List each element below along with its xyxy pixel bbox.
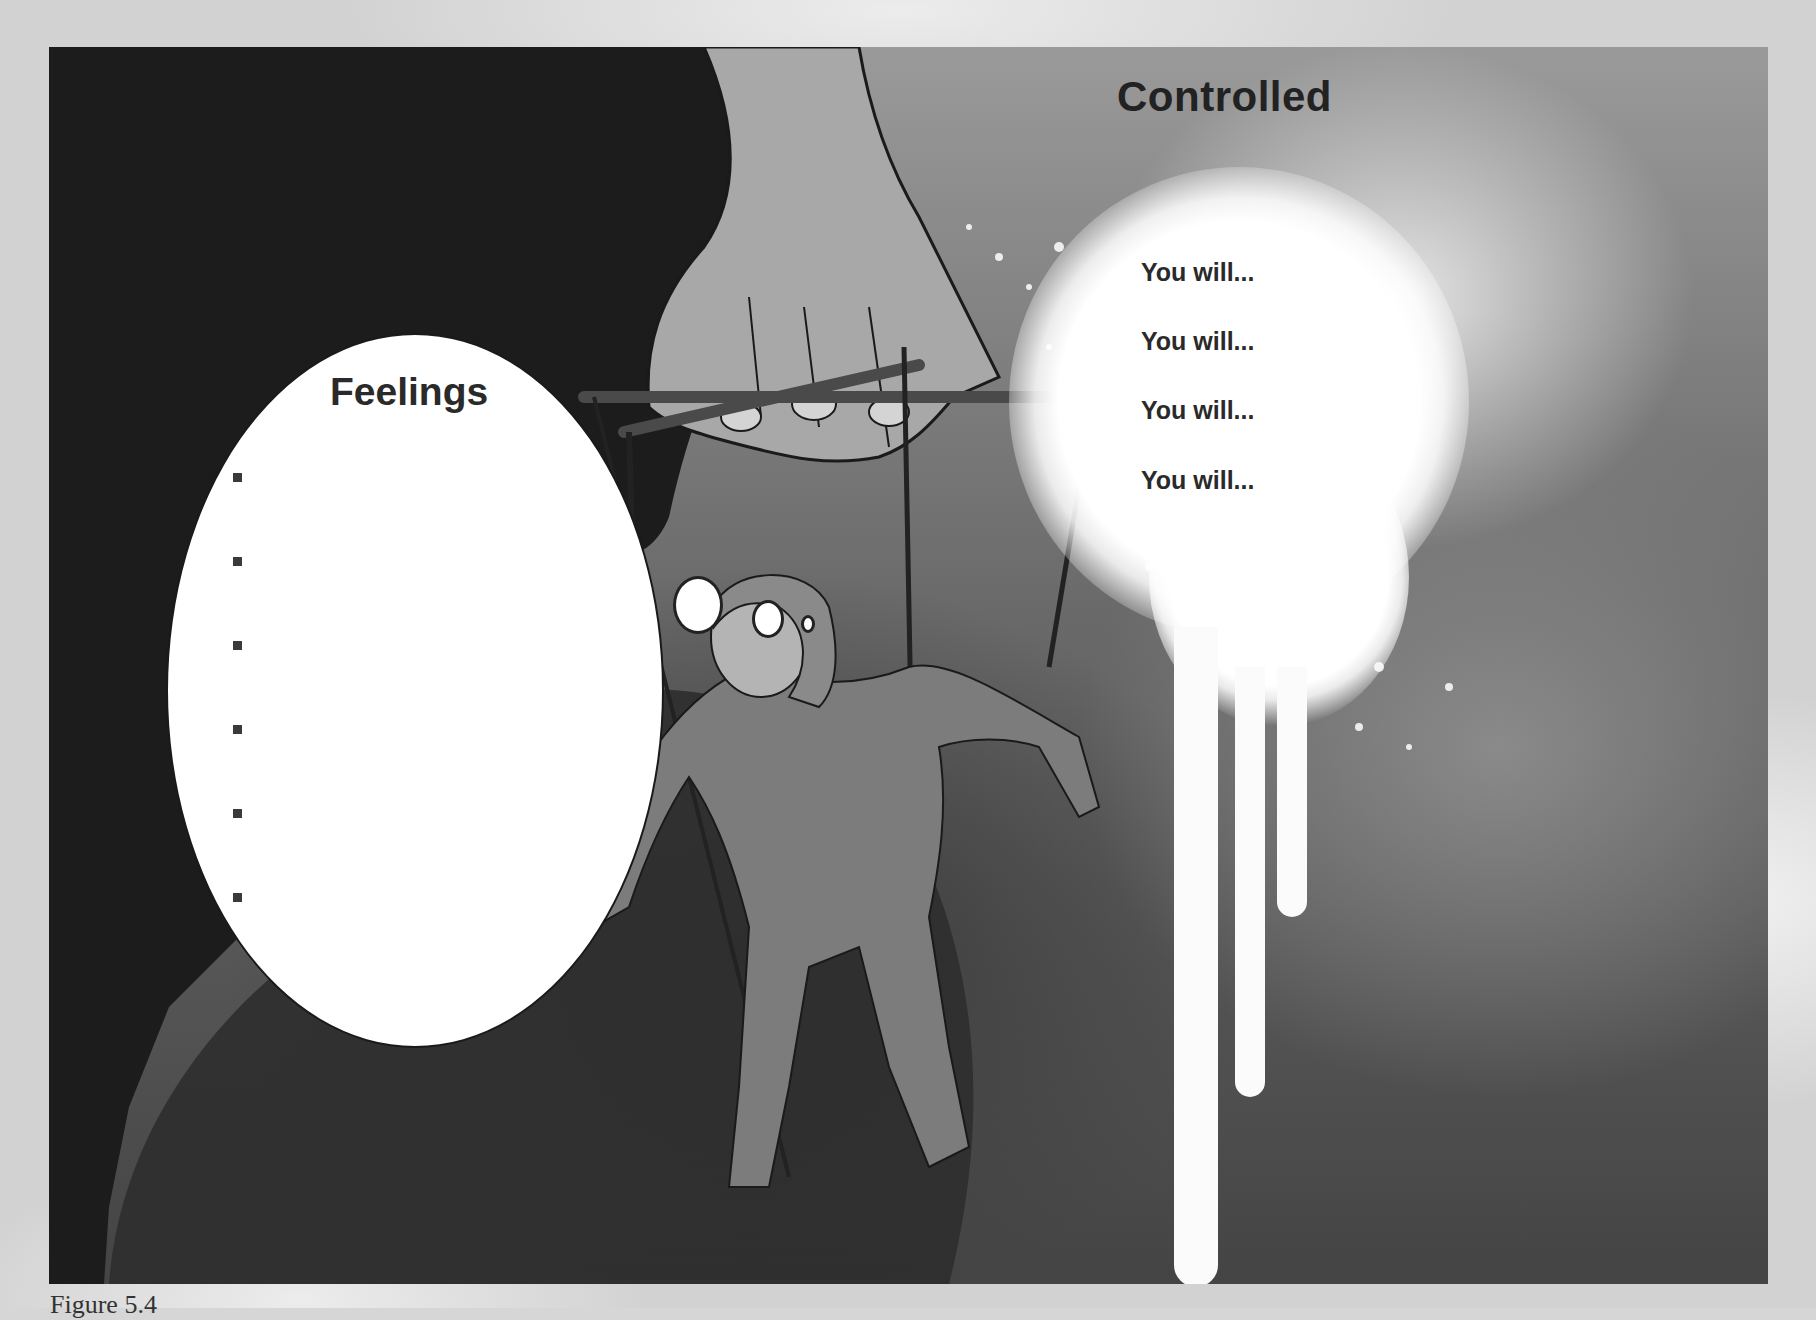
paint-drip [1235,667,1265,1097]
feelings-title: Feelings [330,370,488,414]
feelings-thought-bubble [166,333,664,1048]
feelings-bullet [233,473,242,482]
feelings-bullet [233,725,242,734]
paint-drip [1277,667,1307,917]
feelings-bullet [233,557,242,566]
thought-dot-medium [752,600,784,638]
you-will-line: You will... [1141,327,1254,356]
feelings-bullet [233,641,242,650]
thought-dot-large [673,576,723,634]
figure-caption: Figure 5.4 [50,1290,157,1320]
thought-dot-small [801,615,815,633]
feelings-bullet [233,809,242,818]
controlled-title: Controlled [1117,73,1332,121]
you-will-line: You will... [1141,258,1254,287]
you-will-line: You will... [1141,396,1254,425]
paint-drip [1174,627,1218,1284]
feelings-bullet [233,893,242,902]
you-will-line: You will... [1141,466,1254,495]
